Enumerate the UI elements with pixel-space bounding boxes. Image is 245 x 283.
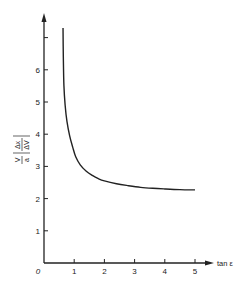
origin-label: 0 (36, 267, 41, 276)
axis-labels: 123456123450tan εVaΔxΔV (13, 66, 234, 276)
x-tick-label: 3 (132, 267, 137, 276)
x-tick-label: 5 (193, 267, 198, 276)
y-tick-label: 5 (36, 98, 41, 107)
y-tick-label: 2 (36, 195, 41, 204)
ticks (44, 38, 195, 263)
y-tick-label: 1 (36, 227, 41, 236)
y-label-den: a (23, 158, 30, 162)
chart: 123456123450tan εVaΔxΔV (0, 0, 245, 283)
x-tick-label: 2 (102, 267, 107, 276)
x-axis-label: tan ε (217, 259, 234, 268)
y-tick-label: 6 (36, 66, 41, 75)
chart-svg: 123456123450tan εVaΔxΔV (0, 0, 245, 283)
series-curve (63, 28, 195, 190)
y-tick-label: 4 (36, 130, 41, 139)
x-tick-label: 1 (72, 267, 77, 276)
x-tick-label: 4 (163, 267, 168, 276)
data-series (63, 28, 195, 190)
axes (42, 13, 215, 266)
x-axis-arrow-icon (205, 261, 214, 266)
y-axis-arrow-icon (42, 13, 47, 22)
y-axis-label: VaΔxΔV (13, 136, 30, 164)
y-label-num: V (14, 157, 21, 162)
y-label-abs-den: ΔV (23, 140, 30, 150)
y-tick-label: 3 (36, 162, 41, 171)
y-label-abs-num: Δx (14, 140, 21, 149)
